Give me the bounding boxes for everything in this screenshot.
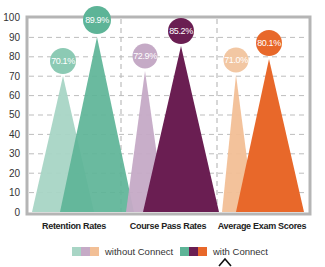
legend-label: with Connect <box>213 246 268 257</box>
y-tick: 90 <box>9 32 21 43</box>
y-tick: 0 <box>14 207 20 218</box>
legend-without-connect: without Connect <box>72 244 173 258</box>
group-course-pass-rates: 72.9% 85.2% <box>126 18 219 212</box>
legend-swatch <box>180 247 207 256</box>
y-tick: 100 <box>3 12 20 23</box>
value-label: 89.9% <box>85 15 109 25</box>
x-label: Retention Rates <box>42 221 106 231</box>
y-tick: 80 <box>9 51 21 62</box>
caret-pointer-icon <box>218 257 232 267</box>
y-tick: 60 <box>9 90 21 101</box>
legend-with-connect: with Connect <box>180 244 268 258</box>
legend-label: without Connect <box>105 246 173 257</box>
value-label: 80.1% <box>257 38 281 48</box>
y-tick: 50 <box>9 109 21 120</box>
legend-swatch <box>72 247 99 256</box>
x-axis: Retention Rates Course Pass Rates Averag… <box>42 221 307 231</box>
y-tick: 70 <box>9 71 21 82</box>
value-label: 85.2% <box>169 26 193 36</box>
x-label: Course Pass Rates <box>130 221 207 231</box>
bar-with-connect <box>143 46 219 212</box>
y-tick: 40 <box>9 129 21 140</box>
y-tick: 30 <box>9 148 21 159</box>
value-label: 70.1% <box>51 56 75 66</box>
y-tick: 10 <box>9 187 21 198</box>
x-label: Average Exam Scores <box>218 221 307 231</box>
y-axis: 0 10 20 30 40 50 60 70 80 90 100 <box>3 12 20 217</box>
value-label: 71.0% <box>224 55 248 65</box>
bar-with-connect <box>236 59 304 212</box>
value-label: 72.9% <box>133 51 157 61</box>
y-tick: 20 <box>9 168 21 179</box>
